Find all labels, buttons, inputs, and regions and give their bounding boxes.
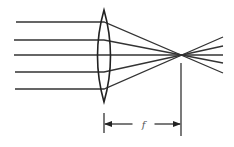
focal-length-dimension: f <box>104 63 181 136</box>
focal-length-label: f <box>141 119 148 130</box>
ray-5 <box>15 37 223 89</box>
ray-1 <box>16 22 223 73</box>
light-rays <box>14 22 223 89</box>
lens-diagram: f <box>0 0 234 147</box>
